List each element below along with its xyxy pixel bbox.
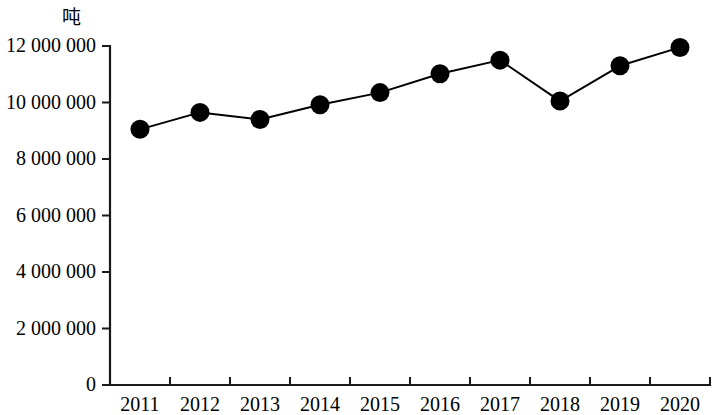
data-point-marker: [131, 120, 150, 139]
data-point-marker: [551, 92, 570, 111]
x-axis-ticks: [110, 377, 710, 385]
data-point-marker: [671, 38, 690, 57]
line-chart: 吨 02 000 0004 000 0006 000 0008 000 0001…: [0, 0, 713, 415]
axis-lines: [110, 46, 710, 385]
data-point-marker: [311, 95, 330, 114]
data-line: [140, 47, 680, 129]
data-point-marker: [371, 83, 390, 102]
data-point-markers: [131, 38, 690, 139]
data-point-marker: [491, 51, 510, 70]
data-point-marker: [191, 103, 210, 122]
plot-area: [0, 0, 713, 415]
data-point-marker: [611, 56, 630, 75]
y-axis-ticks: [102, 46, 110, 385]
data-point-marker: [431, 64, 450, 83]
data-point-marker: [251, 110, 270, 129]
